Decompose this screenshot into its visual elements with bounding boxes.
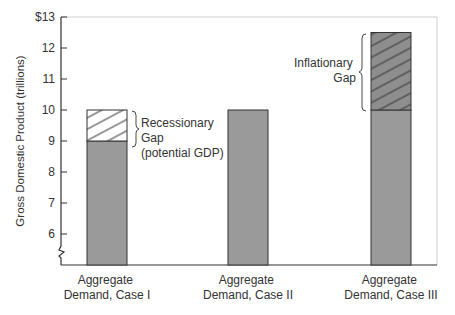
recessionary-gap-segment [87,110,127,141]
recessionary-gap-label: Recessionary Gap (potential GDP) [141,116,224,160]
y-ticks: 6789101112$13 [35,10,67,241]
category-label-case-1: Aggregate Demand, Case I [64,273,151,302]
gdp-gap-chart: 6789101112$13 Gross Domestic Product (tr… [0,0,455,315]
inflationary-gap-brace [359,34,366,111]
bar-case-3 [371,110,411,265]
category-label-case-3: Aggregate Demand, Case III [344,273,437,302]
y-tick-label: 8 [48,165,55,179]
category-label-case-2: Aggregate Demand, Case II [203,273,293,302]
bar-case-2 [228,110,268,265]
y-tick-label: 7 [48,196,55,210]
recessionary-gap-brace [132,111,139,147]
y-tick-label: 10 [42,103,56,117]
y-tick-label: 9 [48,134,55,148]
category-labels: Aggregate Demand, Case I Aggregate Deman… [64,273,438,302]
y-tick-label: 6 [48,227,55,241]
y-tick-label: 12 [42,41,56,55]
y-axis-title: Gross Domestic Product (trillions) [14,55,26,226]
inflationary-gap-label: Inflationary Gap [294,56,356,85]
bar-case-1 [87,141,127,265]
y-tick-label: $13 [35,10,55,24]
inflationary-gap-segment [371,33,411,111]
y-tick-label: 11 [43,72,56,86]
